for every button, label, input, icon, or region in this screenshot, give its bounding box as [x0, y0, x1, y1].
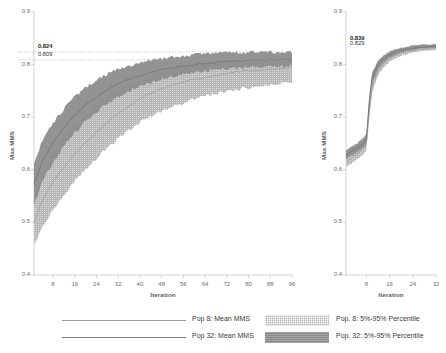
x-axis-title-right: Iteration: [346, 291, 436, 298]
y-tick-label: 0.6: [8, 166, 30, 172]
y-tick-label: 0.6: [320, 166, 342, 172]
legend-row: Pop 32: Mean MMS Pop. 32: 5%-95% Percent…: [0, 330, 446, 346]
legend-line-sample-pop32: [62, 337, 186, 338]
chart-panel-right: Max MMS Iteration 0.40.50.60.70.80.98162…: [312, 0, 446, 305]
x-tick-label: 8: [356, 281, 376, 287]
x-axis-title-left: Iteration: [34, 291, 292, 298]
x-tick-label: 16: [65, 281, 85, 287]
y-tick-label: 0.8: [8, 61, 30, 67]
x-tick-label: 88: [260, 281, 280, 287]
y-tick-label: 0.4: [8, 271, 30, 277]
y-tick-label: 0.9: [320, 8, 342, 14]
x-tick-label: 80: [239, 281, 259, 287]
y-tick-label: 0.7: [320, 113, 342, 119]
legend-swatch-pop32-percentile: [265, 332, 329, 343]
legend-swatch-pop8-percentile: [265, 315, 329, 326]
y-axis-title-left: Max MMS: [8, 131, 15, 160]
annotation-value: 0.829: [350, 40, 365, 46]
chart-legend: Pop 8: Mean MMS Pop. 8: 5%-95% Percentil…: [0, 305, 446, 353]
x-tick-label: 72: [217, 281, 237, 287]
x-tick-label: 56: [173, 281, 193, 287]
y-tick-label: 0.5: [320, 218, 342, 224]
legend-label-pop32-percentile: Pop. 32: 5%-95% Percentile: [336, 332, 424, 339]
x-tick-label: 8: [43, 281, 63, 287]
figure-container: Max MMS Iteration 0.40.50.60.70.80.98162…: [0, 0, 446, 353]
x-tick-label: 24: [403, 281, 423, 287]
legend-row: Pop 8: Mean MMS Pop. 8: 5%-95% Percentil…: [0, 313, 446, 329]
x-tick-label: 32: [426, 281, 446, 287]
x-tick-label: 32: [108, 281, 128, 287]
y-tick-label: 0.5: [8, 218, 30, 224]
x-tick-label: 64: [195, 281, 215, 287]
legend-label-pop8-percentile: Pop. 8: 5%-95% Percentile: [336, 315, 420, 322]
chart-panel-left: Max MMS Iteration 0.40.50.60.70.80.98162…: [0, 0, 312, 305]
legend-label-pop32-mean: Pop 32: Mean MMS: [192, 332, 254, 339]
legend-label-pop8-mean: Pop 8: Mean MMS: [192, 315, 250, 322]
y-tick-label: 0.4: [320, 271, 342, 277]
x-tick-label: 24: [86, 281, 106, 287]
y-tick-label: 0.9: [8, 8, 30, 14]
x-tick-label: 40: [130, 281, 150, 287]
x-tick-label: 48: [152, 281, 172, 287]
plot-area-right: [312, 0, 446, 305]
x-tick-label: 96: [282, 281, 302, 287]
annotation-value: 0.824: [38, 43, 53, 49]
legend-line-sample-pop8: [62, 320, 186, 321]
y-tick-label: 0.8: [320, 61, 342, 67]
y-tick-label: 0.7: [8, 113, 30, 119]
y-axis-title-right: Max MMS: [320, 131, 327, 160]
x-tick-label: 16: [380, 281, 400, 287]
annotation-value: 0.809: [38, 51, 53, 57]
